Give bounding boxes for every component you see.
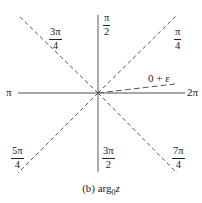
label-3pi-over-2: 3π 2 bbox=[102, 146, 115, 170]
argument-diagram bbox=[0, 0, 202, 203]
label-7pi-over-4: 7π 4 bbox=[172, 146, 185, 170]
label-7pi-over-4-num: 7π bbox=[172, 146, 185, 159]
label-pi-over-2: π 2 bbox=[103, 13, 110, 37]
label-3pi-over-4: 3π 4 bbox=[49, 27, 62, 51]
epsilon-ray bbox=[98, 84, 175, 93]
label-pi-over-2-den: 2 bbox=[104, 26, 109, 38]
diagonal-5pi-4 bbox=[18, 93, 98, 173]
label-pi: π bbox=[6, 87, 12, 98]
label-5pi-over-4-den: 4 bbox=[15, 159, 20, 171]
label-pi-over-2-num: π bbox=[103, 13, 110, 26]
label-pi-over-4: π 4 bbox=[174, 27, 181, 51]
label-3pi-over-2-den: 2 bbox=[106, 159, 111, 171]
label-7pi-over-4-den: 4 bbox=[176, 159, 181, 171]
figure-caption: (b) arg0z bbox=[0, 182, 202, 197]
label-5pi-over-4: 5π 4 bbox=[11, 146, 24, 170]
label-5pi-over-4-num: 5π bbox=[11, 146, 24, 159]
label-pi-over-4-den: 4 bbox=[175, 40, 180, 52]
label-zero-plus-epsilon: 0 + ε bbox=[148, 73, 170, 84]
caption-prefix: (b) arg bbox=[82, 182, 111, 194]
label-3pi-over-2-num: 3π bbox=[102, 146, 115, 159]
label-2pi: 2π bbox=[187, 87, 198, 98]
label-pi-over-4-num: π bbox=[174, 27, 181, 40]
label-3pi-over-4-den: 4 bbox=[53, 40, 58, 52]
caption-variable: z bbox=[116, 182, 120, 194]
label-3pi-over-4-num: 3π bbox=[49, 27, 62, 40]
